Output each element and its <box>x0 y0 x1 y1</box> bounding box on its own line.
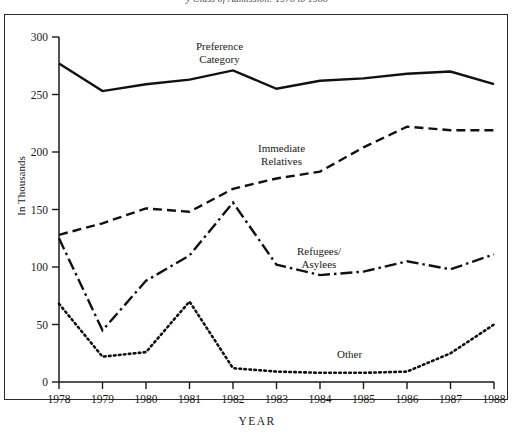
y-tick-label: 250 <box>31 89 49 101</box>
y-tick-label: 300 <box>31 31 49 43</box>
x-tick-label: 1985 <box>352 393 375 405</box>
x-tick-label: 1982 <box>222 393 245 405</box>
y-tick-label: 200 <box>31 146 49 158</box>
series-line <box>59 63 494 91</box>
x-tick-label: 1979 <box>91 393 114 405</box>
x-tick-label: 1984 <box>309 393 332 405</box>
y-tick-label: 150 <box>31 204 49 216</box>
x-tick-label: 1978 <box>48 393 71 405</box>
x-tick-label: 1987 <box>439 393 462 405</box>
series-line <box>59 302 494 373</box>
x-tick-label: 1983 <box>265 393 288 405</box>
y-tick-label: 0 <box>42 376 48 388</box>
chart-canvas: 0501001502002503001978197919801981198219… <box>0 0 514 442</box>
series-line <box>59 127 494 235</box>
y-tick-label: 100 <box>31 261 49 273</box>
x-tick-label: 1981 <box>178 393 201 405</box>
x-tick-label: 1986 <box>396 393 419 405</box>
y-tick-label: 50 <box>37 319 49 331</box>
chart-figure: y Class of Admission: 1978 to 1988 In Th… <box>0 0 514 442</box>
x-tick-label: 1988 <box>483 393 506 405</box>
x-tick-label: 1980 <box>135 393 158 405</box>
series-line <box>59 203 494 331</box>
